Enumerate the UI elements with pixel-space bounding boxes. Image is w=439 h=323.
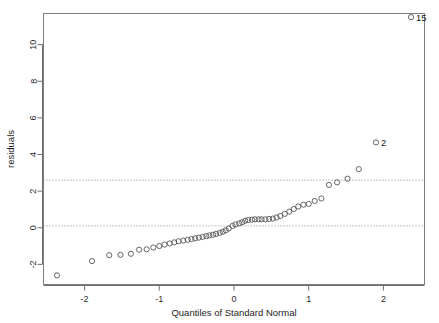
qq-plot-figure: -2-1012 -20246810 152 Quantiles of Stand…	[0, 0, 439, 323]
plot-background	[0, 0, 439, 323]
y-axis-title: residuals	[5, 130, 16, 168]
y-tick-label-4: 6	[29, 115, 39, 120]
x-tick-label-4: 2	[381, 294, 386, 304]
y-tick-label-1: 0	[29, 225, 39, 230]
qq-plot-canvas: -2-1012 -20246810 152 Quantiles of Stand…	[0, 0, 439, 323]
x-tick-label-2: 0	[231, 294, 236, 304]
point-label-2: 2	[381, 137, 386, 148]
y-tick-label-5: 8	[29, 79, 39, 84]
x-tick-label-3: 1	[306, 294, 311, 304]
y-tick-label-6: 10	[29, 40, 39, 50]
x-axis-title: Quantiles of Standard Normal	[171, 307, 296, 318]
y-tick-label-2: 2	[29, 189, 39, 194]
x-tick-label-1: -1	[155, 294, 163, 304]
y-tick-label-0: -2	[29, 260, 39, 268]
x-tick-label-0: -2	[81, 294, 89, 304]
y-tick-label-3: 4	[29, 152, 39, 157]
point-label-15: 15	[416, 12, 427, 23]
